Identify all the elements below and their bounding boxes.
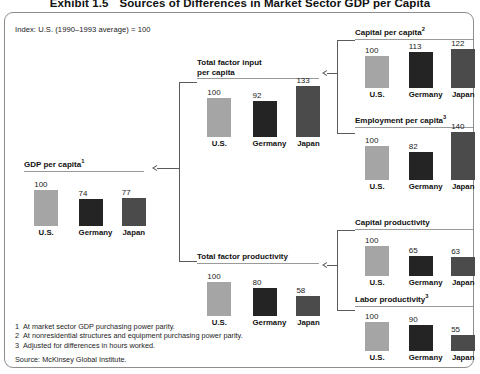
category-label: U.S.: [207, 139, 231, 148]
bar-value-label: 74: [79, 189, 103, 198]
bar: [34, 190, 58, 226]
bar-group-japan: 133Japan: [296, 81, 320, 137]
bar-value-label: 100: [365, 312, 389, 321]
bar-group-japan: 77Japan: [122, 174, 146, 226]
footnote-1-number: 1: [15, 322, 23, 331]
bar-value-label: 82: [409, 142, 433, 151]
bar-value-label: 122: [451, 39, 475, 48]
chart-total-factor-productivity: Total factor productivity 100U.S.80Germa…: [197, 252, 319, 316]
bar-group-germany: 92Germany: [253, 81, 277, 137]
footnote-1: 1At market sector GDP purchasing power p…: [15, 322, 315, 331]
exhibit-title: Exhibit 1.5Sources of Differences in Mar…: [0, 0, 480, 9]
bar: [409, 256, 433, 276]
bar: [451, 49, 475, 88]
bar-value-label: 100: [34, 180, 58, 189]
chart-title: Capital productivity: [355, 218, 473, 229]
bar-value-label: 133: [296, 76, 320, 85]
connector-employment-per-capita-stub: [337, 133, 355, 134]
chart-plot: 100U.S.65Germany63Japan: [355, 232, 473, 276]
footnote-2-number: 2: [15, 331, 23, 340]
chart-rule: [355, 229, 473, 230]
chart-title: Total factor input per capita: [197, 58, 319, 78]
bar-value-label: 77: [122, 188, 146, 197]
chart-title: GDP per capita1: [24, 160, 144, 171]
category-label: Germany: [409, 353, 433, 362]
bar-value-label: 100: [365, 46, 389, 55]
bar-value-label: 100: [365, 136, 389, 145]
chart-plot: 100U.S.82Germany140Japan: [355, 130, 473, 180]
footnote-1-text: At market sector GDP purchasing power pa…: [23, 322, 175, 331]
bar-group-japan: 63Japan: [451, 232, 475, 276]
category-label: Japan: [451, 90, 475, 99]
bar-group-japan: 140Japan: [451, 130, 475, 180]
chart-title-footnote-marker: 3: [425, 293, 428, 299]
connector-middle-trunk: [179, 82, 180, 261]
bar-group-us: 100U.S.: [207, 266, 231, 316]
bar-group-us: 100U.S.: [365, 309, 389, 351]
bar: [122, 198, 146, 226]
bar-value-label: 55: [451, 325, 475, 334]
footnote-3: 3Adjusted for differences in hours worke…: [15, 341, 315, 350]
exhibit-number: Exhibit 1.5: [50, 0, 109, 9]
connector-middle-bottom-stub: [179, 261, 197, 262]
bar: [207, 282, 231, 316]
bar-group-germany: 82Germany: [409, 130, 433, 180]
bar-value-label: 113: [409, 42, 433, 51]
bar-value-label: 100: [365, 236, 389, 245]
footnote-2-text: At nonresidential structures and equipme…: [23, 331, 243, 340]
chart-title-footnote-marker: 2: [422, 26, 425, 32]
bar: [451, 132, 475, 180]
category-label: U.S.: [365, 353, 389, 362]
bar-value-label: 65: [409, 246, 433, 255]
chart-plot: 100U.S.80Germany58Japan: [197, 266, 319, 316]
chart-plot: 100U.S.74Germany77Japan: [24, 174, 144, 226]
chart-rule: [197, 263, 319, 264]
category-label: Germany: [409, 90, 433, 99]
bar: [253, 101, 277, 137]
bar-value-label: 100: [207, 88, 231, 97]
bar: [451, 257, 475, 276]
chart-labor-productivity: Labor productivity3 100U.S.90Germany55Ja…: [355, 295, 473, 351]
exhibit-title-text: Sources of Differences in Market Sector …: [119, 0, 430, 9]
bar: [296, 296, 320, 316]
chart-title-line2: per capita: [197, 68, 235, 77]
category-label: Japan: [296, 139, 320, 148]
category-label: Germany: [409, 278, 433, 287]
bar: [409, 52, 433, 88]
chart-plot: 100U.S.113Germany122Japan: [355, 42, 473, 88]
category-label: Germany: [409, 182, 433, 191]
chart-plot: 100U.S.92Germany133Japan: [197, 81, 319, 137]
footnote-3-number: 3: [15, 341, 23, 350]
bar-group-germany: 80Germany: [253, 266, 277, 316]
bar-value-label: 90: [409, 315, 433, 324]
bar-group-us: 100U.S.: [365, 232, 389, 276]
chart-employment-per-capita: Employment per capita3 100U.S.82Germany1…: [355, 116, 473, 180]
bar: [365, 56, 389, 88]
chart-title: Capital per capita2: [355, 28, 473, 39]
category-label: Germany: [253, 139, 277, 148]
connector-capital-per-capita-stub: [337, 40, 355, 41]
bar: [365, 322, 389, 351]
chart-title-line1: Total factor input: [197, 58, 262, 67]
bar-value-label: 58: [296, 286, 320, 295]
bar-group-us: 100U.S.: [34, 174, 58, 226]
bar-group-germany: 113Germany: [409, 42, 433, 88]
index-note: Index: U.S. (1990–1993 average) = 100: [15, 25, 150, 34]
bar: [409, 325, 433, 351]
bar-value-label: 80: [253, 278, 277, 287]
bar-value-label: 100: [207, 272, 231, 281]
bar: [365, 146, 389, 180]
connector-right-trunk-productivity: [337, 230, 338, 310]
bar-group-germany: 65Germany: [409, 232, 433, 276]
category-label: U.S.: [34, 228, 58, 237]
category-label: U.S.: [365, 278, 389, 287]
bar-group-germany: 90Germany: [409, 309, 433, 351]
source-line: Source: McKinsey Global Institute.: [15, 355, 127, 364]
bar: [451, 335, 475, 351]
chart-capital-productivity: Capital productivity 100U.S.65Germany63J…: [355, 218, 473, 276]
footnote-2: 2At nonresidential structures and equipm…: [15, 331, 315, 340]
category-label: Japan: [122, 228, 146, 237]
chart-rule: [24, 171, 144, 172]
bar: [79, 199, 103, 226]
category-label: U.S.: [365, 90, 389, 99]
